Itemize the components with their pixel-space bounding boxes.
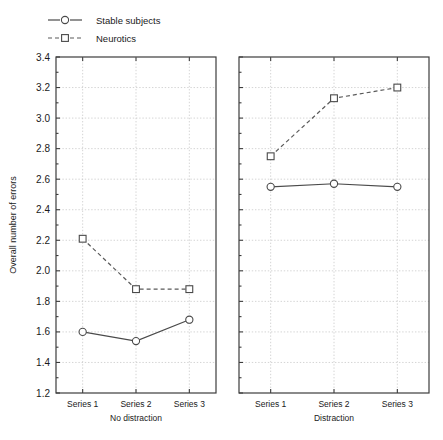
legend-marker	[62, 35, 69, 42]
data-point-marker	[186, 316, 193, 323]
data-point-marker	[79, 235, 86, 242]
y-axis-title: Overall number of errors	[8, 176, 18, 274]
legend-label: Stable subjects	[96, 15, 161, 26]
data-point-marker	[132, 337, 139, 344]
data-point-marker	[394, 183, 401, 190]
data-point-marker	[79, 328, 86, 335]
x-tick-label: Series 3	[382, 399, 413, 409]
panel-title: Distraction	[314, 413, 354, 423]
y-tick-label: 3.0	[36, 113, 50, 124]
data-point-marker	[330, 180, 337, 187]
y-tick-label: 2.8	[36, 143, 50, 154]
y-tick-label: 2.2	[36, 235, 50, 246]
x-tick-label: Series 1	[67, 399, 98, 409]
data-point-marker	[267, 183, 274, 190]
legend-label: Neurotics	[96, 33, 136, 44]
x-tick-label: Series 1	[255, 399, 286, 409]
y-tick-label: 1.4	[36, 357, 50, 368]
panel-title: No distraction	[110, 413, 162, 423]
data-point-marker	[331, 95, 338, 102]
y-tick-label: 2.6	[36, 174, 50, 185]
data-point-marker	[267, 153, 274, 160]
chart-container: 1.21.41.61.82.02.22.42.62.83.03.23.4Over…	[0, 0, 443, 440]
data-point-marker	[186, 286, 193, 293]
x-tick-label: Series 2	[120, 399, 151, 409]
x-tick-label: Series 2	[318, 399, 349, 409]
y-tick-label: 1.8	[36, 296, 50, 307]
x-tick-label: Series 3	[174, 399, 205, 409]
y-tick-label: 2.4	[36, 204, 50, 215]
y-tick-label: 3.4	[36, 52, 50, 63]
legend-marker	[61, 16, 68, 23]
y-tick-label: 2.0	[36, 265, 50, 276]
data-point-marker	[133, 286, 140, 293]
y-tick-label: 3.2	[36, 82, 50, 93]
y-tick-label: 1.2	[36, 388, 50, 399]
data-point-marker	[394, 84, 401, 91]
y-tick-label: 1.6	[36, 326, 50, 337]
line-chart: 1.21.41.61.82.02.22.42.62.83.03.23.4Over…	[0, 0, 443, 440]
